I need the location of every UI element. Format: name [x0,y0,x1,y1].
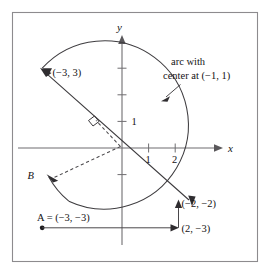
x-axis-arrowhead [214,144,223,152]
right-angle-marker [89,116,100,126]
arc-note-line-2: center at (−1, 1) [163,70,231,82]
arc-note-pointer-arrowhead [161,96,170,102]
horizontal-translation-arrowhead [171,224,180,231]
label-point-neg2-neg2: (−2, −2) [182,198,217,210]
y-axis-label: y [116,21,122,33]
label-point-2-neg3: (2, −3) [182,223,211,235]
solid-line-group [40,68,196,206]
arc-note-line-1: arc with [171,56,206,67]
figure-container: x y 1 2 1 (−3, 3) arc with center at (−1… [0,0,270,274]
x-tick-label-2: 2 [172,154,177,165]
label-point-b: B [28,170,35,181]
solid-line-segment [45,72,189,200]
arc-arrowhead-at-b [47,174,59,182]
y-tick-label-1: 1 [132,116,137,127]
label-point-neg3-3: (−3, 3) [53,67,82,79]
dashed-line-segment [52,147,121,179]
label-point-a: A = (−3, −3) [37,212,90,224]
dashed-line-group [52,121,121,179]
figure-border [13,13,258,262]
dashed-line-upper-extension [96,121,121,147]
coordinate-plot-svg: x y 1 2 1 (−3, 3) arc with center at (−1… [0,0,270,274]
arc-note-pointer-line [166,85,181,98]
x-tick-label-1: 1 [146,154,151,165]
x-axis-label: x [227,142,233,154]
